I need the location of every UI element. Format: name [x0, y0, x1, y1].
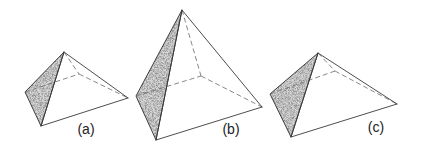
pyramid-label: (c) [368, 119, 384, 135]
pyramid-label: (b) [222, 121, 239, 137]
hidden-edge [335, 71, 397, 104]
visible-edge [156, 107, 262, 140]
stipple-texture [270, 53, 318, 137]
hidden-edge [201, 76, 262, 107]
stipple-texture [136, 10, 182, 140]
pyramid-label: (a) [77, 121, 94, 137]
visible-edge [318, 53, 397, 104]
pyramid-b: (b) [136, 10, 262, 140]
hidden-edge [182, 10, 201, 76]
pyramid-c: (c) [270, 53, 397, 137]
pyramid-a: (a) [25, 52, 128, 137]
visible-edge [64, 52, 128, 98]
hidden-edge [64, 52, 79, 74]
hidden-edge [79, 74, 128, 98]
visible-edge [182, 10, 262, 107]
pyramid-diagram: (a)(b)(c) [0, 0, 421, 149]
